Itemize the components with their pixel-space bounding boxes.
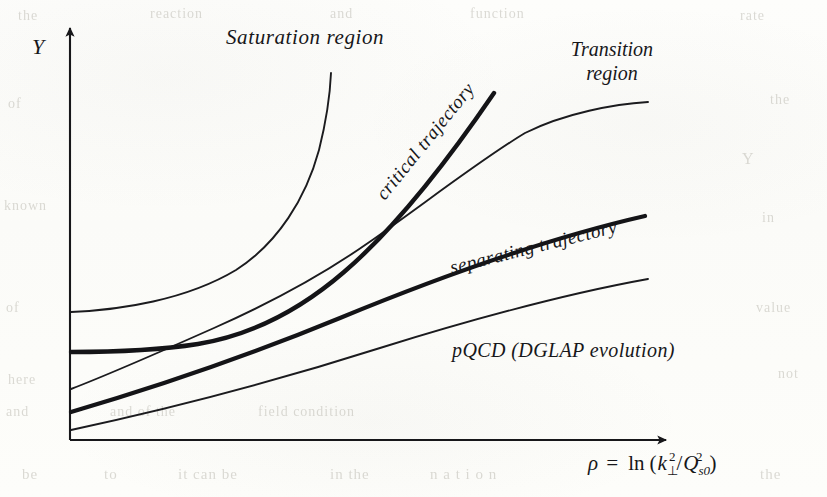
x-label-open-paren: ( [650,451,657,475]
separating-trajectory-label: separating trajectory [448,216,620,278]
pqcd-dglap-region-label: pQCD (DGLAP evolution) [450,339,675,362]
x-label-equals: = [605,451,619,475]
curves-group [71,73,648,430]
transition-region-label-line1: Transition [571,38,653,60]
x-label-close-paren: ) [710,451,717,475]
x-label-ln: ln [628,451,645,475]
figure-page: thereactionandfunctionrateoftheYknownino… [0,0,827,497]
phase-diagram-figure: Y ρ=ln(k⊥2/Qs02) Saturation region Trans… [0,0,827,497]
transition-region-label-line2: region [586,62,637,85]
x-axis-label: ρ=ln(k⊥2/Qs02) [587,449,717,478]
x-label-Q-sup: 2 [696,449,703,464]
x-label-rho: ρ [587,451,598,475]
y-axis-label: Y [32,34,47,59]
svg-text:ρ=ln(k⊥2/Qs02): ρ=ln(k⊥2/Qs02) [587,449,717,478]
x-label-slash: / [676,451,682,475]
saturation-boundary-curve [71,73,331,312]
saturation-region-label: Saturation region [226,25,384,49]
transition-region-label: Transition region [571,38,653,85]
x-label-k-sup: 2 [669,449,676,464]
